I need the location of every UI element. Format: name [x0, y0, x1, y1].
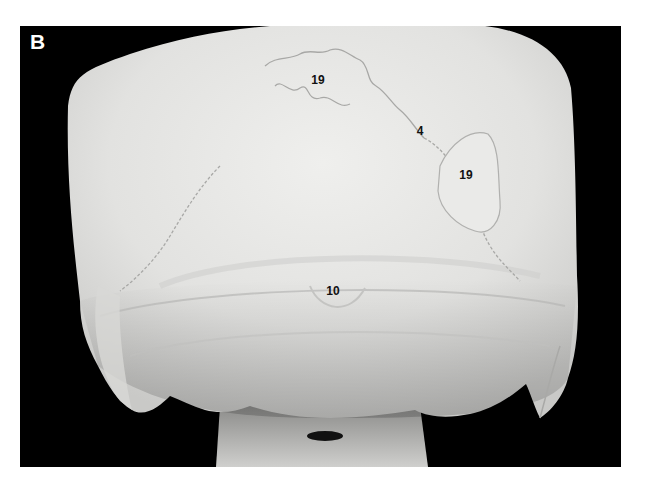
label-19-right: 19: [459, 169, 472, 181]
label-19-upper: 19: [311, 74, 324, 86]
photo-plate: B: [20, 26, 621, 467]
label-10: 10: [326, 285, 339, 297]
foramen-shape: [307, 431, 343, 441]
skull-photo: [20, 26, 621, 467]
label-4: 4: [417, 125, 424, 137]
panel-letter: B: [30, 31, 45, 52]
